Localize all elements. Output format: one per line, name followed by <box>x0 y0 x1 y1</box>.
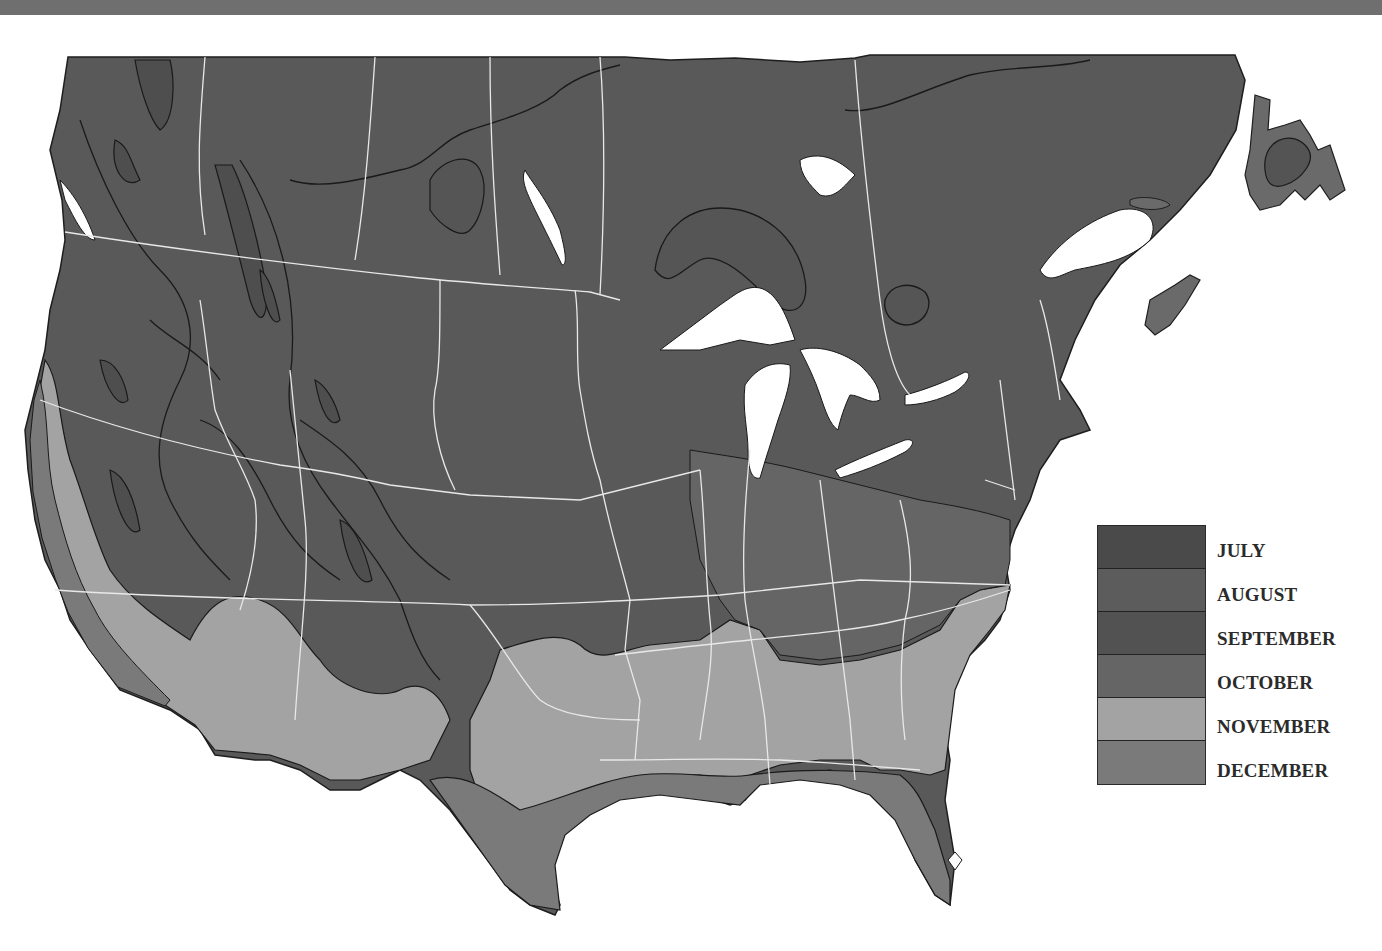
legend-label-december: DECEMBER <box>1217 745 1336 789</box>
legend-label-july: JULY <box>1217 525 1336 569</box>
legend-swatch-october <box>1098 655 1205 698</box>
legend-swatch-july <box>1098 526 1205 569</box>
legend-swatch-september <box>1098 612 1205 655</box>
legend-swatches <box>1097 525 1206 785</box>
landmass-nova-scotia <box>1145 275 1200 335</box>
contour-quebec-loop <box>885 285 929 325</box>
legend-label-september: SEPTEMBER <box>1217 613 1336 657</box>
map-graphic <box>0 0 1382 951</box>
frost-map <box>0 0 1382 951</box>
legend-label-october: OCTOBER <box>1217 657 1336 701</box>
legend-swatch-december <box>1098 741 1205 784</box>
legend-swatch-november <box>1098 698 1205 741</box>
legend-labels: JULY AUGUST SEPTEMBER OCTOBER NOVEMBER D… <box>1217 525 1336 789</box>
legend-swatch-august <box>1098 569 1205 612</box>
legend-label-august: AUGUST <box>1217 569 1336 613</box>
legend-label-november: NOVEMBER <box>1217 701 1336 745</box>
